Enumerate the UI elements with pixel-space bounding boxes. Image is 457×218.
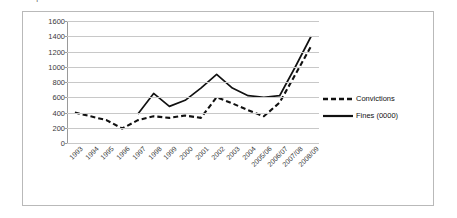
line-chart: 02004006008001000120014001600 1993199419… — [23, 12, 433, 205]
running-head-text: 82 | EXPERT OPINION — [22, 0, 125, 2]
y-axis-tick-label: 600 — [31, 93, 65, 102]
x-axis-tick-label: 1996 — [115, 145, 131, 161]
gridline — [67, 97, 319, 98]
y-axis-tick — [64, 67, 67, 68]
y-axis-tick-label: 0 — [31, 139, 65, 148]
gridline — [67, 82, 319, 83]
y-axis-tick — [64, 128, 67, 129]
y-axis-tick-label: 1600 — [31, 17, 65, 26]
gridline — [67, 128, 319, 129]
legend-label: Convictions — [356, 94, 395, 103]
figure-card: 02004006008001000120014001600 1993199419… — [22, 11, 434, 206]
series-line-convictions — [75, 46, 311, 128]
legend-label: Fines (0000) — [356, 111, 398, 120]
y-axis-tick-label: 400 — [31, 108, 65, 117]
y-axis-tick — [64, 52, 67, 53]
x-axis-tick-label: 1993 — [68, 145, 84, 161]
x-axis-tick-label: 2000 — [178, 145, 194, 161]
gridline — [67, 113, 319, 114]
legend-swatch-dashed-line-icon — [323, 94, 353, 104]
y-axis-tick-label: 1400 — [31, 32, 65, 41]
x-axis-tick-label: 1999 — [162, 145, 178, 161]
y-axis-tick — [64, 36, 67, 37]
x-axis-tick-label: 1994 — [84, 145, 100, 161]
gridline — [67, 21, 319, 22]
legend-swatch-solid-line-icon — [323, 111, 353, 121]
gridline — [67, 36, 319, 37]
running-head: 82 | EXPERT OPINION — [0, 0, 457, 9]
y-axis: 02004006008001000120014001600 — [29, 12, 65, 205]
gridline — [67, 52, 319, 53]
y-axis-tick-label: 200 — [31, 123, 65, 132]
x-axis-tick-label: 2001 — [194, 145, 210, 161]
y-axis-tick — [64, 97, 67, 98]
y-axis-tick — [64, 21, 67, 22]
plot-area — [67, 21, 319, 143]
x-axis-tick-label: 2002 — [210, 145, 226, 161]
x-axis-tick-label: 2003 — [225, 145, 241, 161]
gridline — [67, 143, 319, 144]
y-axis-tick — [64, 82, 67, 83]
y-axis-tick-label: 800 — [31, 78, 65, 87]
legend-item[interactable]: Convictions — [323, 90, 431, 107]
x-axis-tick-label: 1998 — [147, 145, 163, 161]
series-line-fines-0000 — [138, 36, 311, 114]
legend-item[interactable]: Fines (0000) — [323, 107, 431, 124]
x-axis: 1993199419951996199719981999200020012002… — [67, 145, 319, 197]
y-axis-tick — [64, 143, 67, 144]
y-axis-tick-label: 1200 — [31, 47, 65, 56]
gridline — [67, 67, 319, 68]
chart-legend: ConvictionsFines (0000) — [323, 90, 431, 124]
x-axis-tick-label: 1995 — [99, 145, 115, 161]
x-axis-tick-label: 1997 — [131, 145, 147, 161]
y-axis-tick-label: 1000 — [31, 62, 65, 71]
y-axis-tick — [64, 113, 67, 114]
